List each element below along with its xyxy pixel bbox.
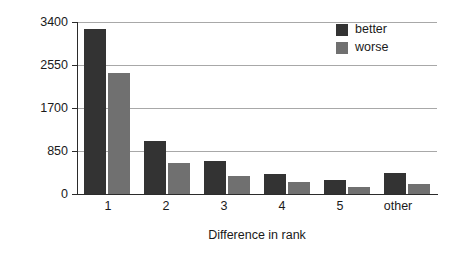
- legend: better worse: [336, 22, 388, 55]
- x-tick-label-3: 3: [194, 199, 254, 213]
- y-tick-label: 3400: [2, 16, 68, 28]
- y-axis-line: [77, 22, 78, 195]
- legend-item-better: better: [336, 22, 388, 37]
- legend-item-worse: worse: [336, 40, 388, 55]
- y-tick-label: 1700: [2, 102, 68, 114]
- bar-worse-2: [168, 163, 190, 194]
- bar-worse-other: [408, 184, 430, 194]
- bar-better-1: [84, 29, 106, 194]
- bar-worse-5: [348, 187, 370, 194]
- bar-better-other: [384, 173, 406, 194]
- gridline: [77, 65, 437, 66]
- legend-label-worse: worse: [355, 41, 388, 54]
- legend-label-better: better: [355, 23, 387, 36]
- x-axis-title: Difference in rank: [77, 228, 437, 242]
- y-tick-label: 0: [2, 188, 68, 200]
- legend-swatch-worse-icon: [336, 42, 348, 54]
- x-tick-label-1: 1: [78, 199, 138, 213]
- bar-better-3: [204, 161, 226, 194]
- x-tick-label-5: 5: [310, 199, 370, 213]
- x-axis-line: [77, 194, 438, 195]
- bar-better-4: [264, 174, 286, 194]
- bar-worse-3: [228, 176, 250, 194]
- x-tick-label-other: other: [368, 199, 428, 213]
- gridline: [77, 108, 437, 109]
- x-tick-label-2: 2: [136, 199, 196, 213]
- bar-worse-4: [288, 182, 310, 194]
- bar-worse-1: [108, 73, 130, 194]
- x-tick-label-4: 4: [252, 199, 312, 213]
- gridline: [77, 151, 437, 152]
- bar-better-2: [144, 141, 166, 194]
- y-tick-label: 850: [2, 145, 68, 157]
- bar-chart-figure: # of queries 3400 2550 1700 850 0 1 2 3 …: [0, 0, 460, 260]
- bar-better-5: [324, 180, 346, 194]
- legend-swatch-better-icon: [336, 24, 348, 36]
- y-tick-label: 2550: [2, 59, 68, 71]
